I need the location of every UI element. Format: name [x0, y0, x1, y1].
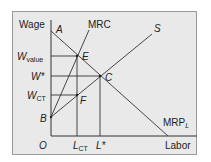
l-star-label: L*: [96, 140, 107, 151]
point-f-label: F: [80, 95, 87, 106]
point-a-label: A: [55, 24, 63, 35]
point-c-label: C: [105, 72, 113, 83]
y-axis-label: Wage: [19, 19, 45, 30]
l-ct-label: LCT: [73, 140, 89, 152]
point-e-dot: [76, 55, 78, 57]
w-ct-label: WCT: [27, 90, 47, 102]
w-value-label: Wvalue: [17, 51, 43, 63]
point-c-dot: [99, 75, 101, 77]
w-star-label: W*: [31, 71, 45, 82]
point-e-label: E: [82, 51, 89, 62]
origin-label: O: [39, 140, 47, 151]
mrp-curve: [51, 31, 168, 136]
mrp-label: MRPL: [163, 117, 189, 129]
monopsony-diagram: Wage Labor O MRC S MRPL A B C E F Wvalue…: [0, 0, 211, 162]
supply-label: S: [154, 23, 161, 34]
x-axis-label: Labor: [165, 140, 191, 151]
supply-curve: [51, 34, 152, 117]
point-b-label: B: [40, 113, 47, 124]
mrc-label: MRC: [88, 19, 111, 30]
point-f-dot: [76, 94, 78, 96]
point-b-dot: [50, 116, 52, 118]
